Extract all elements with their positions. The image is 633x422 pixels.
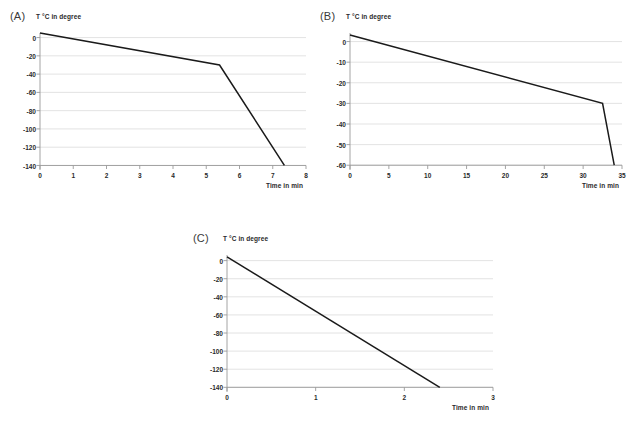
ytick-c-100: -100 — [193, 348, 223, 355]
xaxis-title-b: Time in min — [582, 182, 619, 189]
data-line-c — [227, 257, 440, 387]
ytick-c-60: -60 — [193, 311, 223, 318]
yaxis-ticks-a — [37, 38, 41, 166]
xtick-b-30: 30 — [579, 172, 586, 179]
ytick-b-0: 0 — [318, 38, 346, 45]
panel-label-c: (C) — [193, 232, 209, 244]
xtick-b-25: 25 — [541, 172, 548, 179]
axis-lines-a — [40, 33, 306, 170]
xaxis-title-a: Time in min — [266, 182, 303, 189]
xtick-c-1: 1 — [314, 394, 318, 401]
plot-svg-b — [350, 33, 622, 170]
xtick-a-4: 4 — [171, 172, 175, 179]
ytick-b-40: -40 — [318, 121, 346, 128]
xtick-a-1: 1 — [71, 172, 75, 179]
xtick-c-0: 0 — [225, 394, 229, 401]
ytick-b-20: -20 — [318, 79, 346, 86]
ytick-c-20: -20 — [193, 275, 223, 282]
yaxis-ticks-c — [224, 261, 228, 388]
xaxis-title-c: Time in min — [452, 404, 489, 411]
xtick-a-6: 6 — [238, 172, 242, 179]
panel-label-a: (A) — [10, 10, 25, 22]
ytick-a-100: -100 — [8, 125, 36, 132]
xtick-b-0: 0 — [348, 172, 352, 179]
ytick-c-140: -140 — [193, 384, 223, 391]
chart-panel-c: (C) T °C in degree — [185, 222, 515, 422]
gridlines-b — [350, 42, 622, 166]
xtick-b-15: 15 — [463, 172, 470, 179]
xtick-b-35: 35 — [618, 172, 625, 179]
ytick-a-40: -40 — [8, 71, 36, 78]
ytick-a-20: -20 — [8, 52, 36, 59]
ytick-c-40: -40 — [193, 293, 223, 300]
chart-panel-b: (B) T °C in degree — [313, 0, 633, 200]
ytick-c-80: -80 — [193, 330, 223, 337]
xtick-a-5: 5 — [204, 172, 208, 179]
ytick-a-120: -120 — [8, 144, 36, 151]
yaxis-ticks-b — [347, 42, 351, 166]
xaxis-ticks-a — [40, 165, 306, 169]
data-line-b — [350, 35, 614, 165]
gridlines-c — [227, 261, 493, 388]
xtick-a-7: 7 — [271, 172, 275, 179]
xtick-a-8: 8 — [304, 172, 308, 179]
chart-title-a: T °C in degree — [36, 13, 81, 20]
xtick-c-2: 2 — [402, 394, 406, 401]
chart-title-b: T °C in degree — [346, 13, 391, 20]
panel-label-b: (B) — [320, 10, 335, 22]
ytick-b-30: -30 — [318, 100, 346, 107]
axis-lines-c — [227, 255, 493, 392]
chart-panel-a: (A) T °C in degree — [0, 0, 320, 200]
ytick-a-60: -60 — [8, 89, 36, 96]
axis-lines-b — [350, 33, 622, 170]
xtick-a-2: 2 — [105, 172, 109, 179]
xtick-a-3: 3 — [138, 172, 142, 179]
plot-svg-c — [227, 255, 493, 392]
data-line-a — [40, 33, 284, 165]
plot-area-c — [227, 255, 493, 392]
xtick-b-10: 10 — [424, 172, 431, 179]
ytick-a-0: 0 — [8, 34, 36, 41]
xaxis-ticks-c — [227, 387, 493, 391]
xtick-c-3: 3 — [491, 394, 495, 401]
xtick-b-5: 5 — [387, 172, 391, 179]
xtick-a-0: 0 — [38, 172, 42, 179]
plot-area-a — [40, 33, 306, 170]
ytick-a-80: -80 — [8, 107, 36, 114]
ytick-b-60: -60 — [318, 162, 346, 169]
chart-title-c: T °C in degree — [223, 235, 268, 242]
ytick-a-140: -140 — [8, 162, 36, 169]
plot-area-b — [350, 33, 622, 170]
xtick-b-20: 20 — [502, 172, 509, 179]
ytick-b-50: -50 — [318, 141, 346, 148]
ytick-c-0: 0 — [193, 257, 223, 264]
ytick-b-10: -10 — [318, 59, 346, 66]
xaxis-ticks-b — [350, 165, 622, 169]
ytick-c-120: -120 — [193, 366, 223, 373]
plot-svg-a — [40, 33, 306, 170]
